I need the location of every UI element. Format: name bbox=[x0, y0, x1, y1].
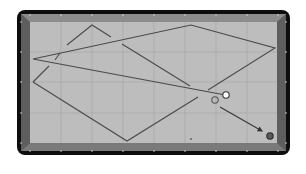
diamond-marker-right bbox=[285, 142, 287, 144]
diamond-marker-bottom bbox=[277, 150, 279, 152]
spot-marker bbox=[190, 138, 192, 140]
diamond-marker-right bbox=[285, 51, 287, 53]
diamond-marker-top bbox=[215, 14, 217, 16]
bottom-cushion-bevel bbox=[21, 143, 286, 151]
diamond-marker-left bbox=[20, 21, 22, 23]
diamond-marker-top bbox=[91, 14, 93, 16]
diamond-marker-top bbox=[246, 14, 248, 16]
diamond-marker-right bbox=[285, 112, 287, 114]
diamond-marker-top bbox=[184, 14, 186, 16]
diamond-marker-top bbox=[29, 14, 31, 16]
diamond-marker-bottom bbox=[215, 150, 217, 152]
diamond-marker-top bbox=[60, 14, 62, 16]
object-ball bbox=[267, 133, 273, 139]
diamond-marker-right bbox=[285, 21, 287, 23]
diamond-marker-bottom bbox=[60, 150, 62, 152]
diamond-marker-top bbox=[122, 14, 124, 16]
diamond-marker-top bbox=[277, 14, 279, 16]
diamond-marker-bottom bbox=[153, 150, 155, 152]
diamond-marker-bottom bbox=[184, 150, 186, 152]
diamond-marker-right bbox=[285, 81, 287, 83]
diamond-marker-top bbox=[153, 14, 155, 16]
diamond-marker-bottom bbox=[122, 150, 124, 152]
diamond-marker-bottom bbox=[29, 150, 31, 152]
diamond-marker-bottom bbox=[246, 150, 248, 152]
cue-ball bbox=[223, 92, 229, 98]
left-cushion-bevel bbox=[21, 14, 30, 151]
diamond-marker-bottom bbox=[91, 150, 93, 152]
billiards-table-diagram bbox=[0, 0, 306, 174]
diamond-marker-left bbox=[20, 112, 22, 114]
diamond-marker-left bbox=[20, 81, 22, 83]
right-cushion-bevel bbox=[277, 14, 286, 151]
diamond-marker-left bbox=[20, 51, 22, 53]
diamond-marker-left bbox=[20, 142, 22, 144]
